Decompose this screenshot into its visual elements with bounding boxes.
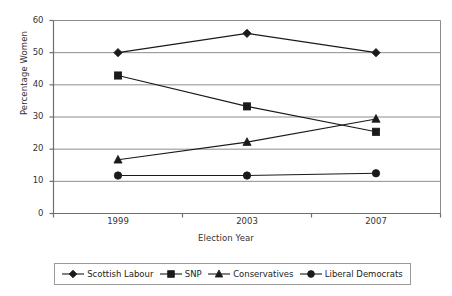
legend-triangle-icon	[208, 268, 230, 280]
marker-diamond	[69, 270, 77, 278]
series-conservatives	[114, 115, 380, 164]
line-chart: Percentage Women 0102030405060 199920032…	[0, 0, 452, 296]
marker-circle	[243, 172, 250, 179]
y-tick-label-40: 40	[18, 79, 44, 89]
marker-square	[243, 103, 250, 110]
marker-circle	[307, 271, 314, 278]
legend-label: Liberal Democrats	[325, 269, 403, 279]
marker-circle	[372, 170, 379, 177]
x-axis-title: Election Year	[0, 233, 452, 243]
chart-legend: Scottish LabourSNPConservativesLiberal D…	[54, 263, 411, 285]
y-tick-label-0: 0	[18, 208, 44, 218]
marker-diamond	[114, 48, 122, 56]
legend-square-icon	[160, 268, 182, 280]
y-tick-label-20: 20	[18, 143, 44, 153]
x-tick-label-2007: 2007	[346, 216, 406, 226]
y-tick-label-50: 50	[18, 47, 44, 57]
y-tick-label-60: 60	[18, 15, 44, 25]
legend-label: Conservatives	[233, 269, 293, 279]
x-tick-label-2003: 2003	[217, 216, 277, 226]
marker-diamond	[243, 29, 251, 37]
marker-square	[114, 72, 121, 79]
legend-diamond-icon	[62, 268, 84, 280]
legend-item-scottish-labour[interactable]: Scottish Labour	[62, 268, 153, 280]
plot-area	[0, 0, 452, 230]
legend-label: SNP	[185, 269, 202, 279]
y-tick-label-30: 30	[18, 111, 44, 121]
series-liberal-democrats	[114, 170, 379, 180]
marker-square	[168, 271, 175, 278]
marker-triangle	[372, 115, 380, 123]
y-tick-label-10: 10	[18, 175, 44, 185]
legend-circle-icon	[300, 268, 322, 280]
legend-item-liberal-democrats[interactable]: Liberal Democrats	[300, 268, 403, 280]
legend-label: Scottish Labour	[87, 269, 153, 279]
legend-item-snp[interactable]: SNP	[160, 268, 202, 280]
x-tick-label-1999: 1999	[88, 216, 148, 226]
marker-square	[372, 128, 379, 135]
legend-item-conservatives[interactable]: Conservatives	[208, 268, 293, 280]
marker-diamond	[372, 48, 380, 56]
marker-circle	[114, 172, 121, 179]
